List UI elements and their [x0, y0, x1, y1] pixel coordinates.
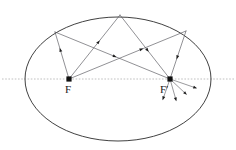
diagram-canvas: FF′: [0, 0, 236, 150]
arrowhead-icon: [139, 47, 144, 51]
arrowhead-icon: [58, 48, 62, 52]
ray-F-to-P3: [69, 31, 186, 79]
direction-marker: [174, 97, 178, 101]
focus-point-right: [167, 76, 172, 81]
ray-F-to-P2: [69, 15, 120, 79]
ray-P3-to-F': [170, 31, 186, 79]
direction-marker: [161, 96, 165, 101]
direction-marker: [139, 47, 144, 51]
direction-marker: [58, 48, 62, 52]
direction-marker: [112, 54, 117, 58]
focus-label-right: F′: [160, 83, 169, 95]
ray-P1-to-F': [55, 32, 170, 79]
ellipse-diagram-figure: FF′: [0, 0, 236, 150]
focus-label-left: F: [65, 83, 71, 95]
outgoing-ray-stub-1: [170, 79, 196, 88]
foci-labels-layer: FF′: [65, 83, 169, 95]
ray-paths-layer: [55, 15, 186, 79]
ray-F-to-P1: [55, 32, 69, 79]
focus-point-left: [66, 76, 71, 81]
direction-markers-layer: [58, 39, 197, 101]
direction-marker: [193, 86, 198, 90]
arrowhead-icon: [175, 55, 179, 60]
arrowhead-icon: [112, 54, 117, 58]
arrowhead-icon: [161, 96, 165, 101]
arrowhead-icon: [193, 86, 198, 90]
direction-marker: [175, 55, 179, 60]
arrowhead-icon: [174, 97, 178, 101]
